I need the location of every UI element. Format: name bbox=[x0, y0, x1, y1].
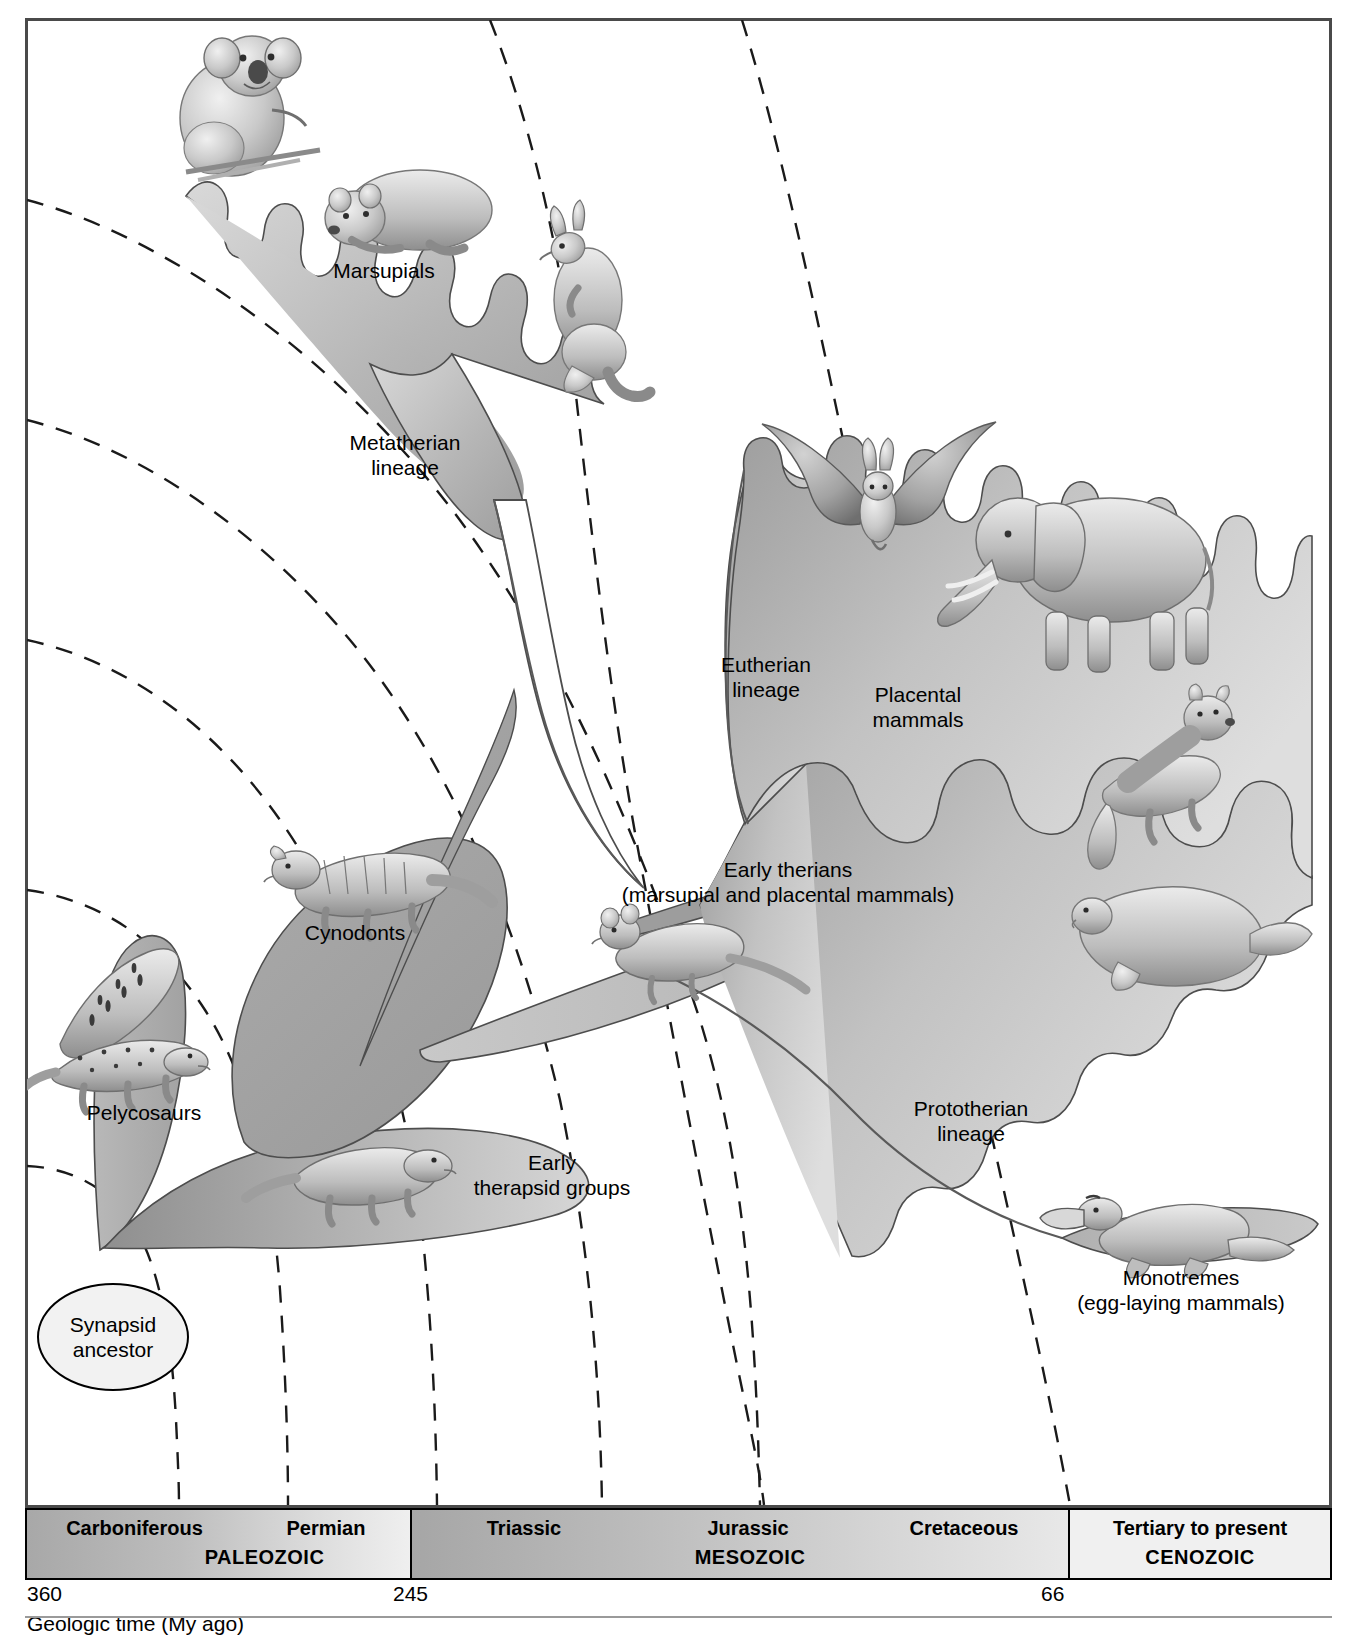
timescale-tick-row: 360 245 66 bbox=[25, 1582, 1332, 1616]
era-name-cenozoic: CENOZOIC bbox=[1070, 1546, 1330, 1569]
era-mesozoic: Triassic Jurassic Cretaceous MESOZOIC bbox=[412, 1510, 1070, 1578]
period-permian: Permian bbox=[242, 1517, 410, 1540]
tick-360: 360 bbox=[27, 1582, 62, 1606]
clade-label-metatherian-lineage: Metatherian lineage bbox=[310, 430, 500, 480]
clade-label-cynodonts: Cynodonts bbox=[292, 920, 418, 945]
mesozoic-periods: Triassic Jurassic Cretaceous bbox=[412, 1510, 1068, 1546]
clade-label-early-therians: Early therians (marsupial and placental … bbox=[620, 857, 956, 907]
clade-label-monotremes: Monotremes (egg-laying mammals) bbox=[1056, 1265, 1306, 1315]
figure-bottom-rule bbox=[25, 1616, 1332, 1618]
paleozoic-periods: Carboniferous Permian bbox=[27, 1510, 410, 1546]
period-triassic: Triassic bbox=[412, 1517, 636, 1540]
cenozoic-periods: Tertiary to present bbox=[1070, 1510, 1330, 1546]
synapsid-ancestor-label: Synapsid ancestor bbox=[39, 1312, 187, 1362]
clade-label-pelycosaurs: Pelycosaurs bbox=[76, 1100, 212, 1125]
clade-label-placental-mammals: Placental mammals bbox=[848, 682, 988, 732]
period-cretaceous: Cretaceous bbox=[860, 1517, 1068, 1540]
tick-66: 66 bbox=[1041, 1582, 1064, 1606]
era-name-mesozoic: MESOZOIC bbox=[412, 1546, 1078, 1569]
tick-245: 245 bbox=[393, 1582, 428, 1606]
mammal-evolution-figure: Marsupials Metatherian lineage Eutherian… bbox=[0, 0, 1357, 1641]
clade-label-early-therapsid-groups: Early therapsid groups bbox=[452, 1150, 652, 1200]
era-name-paleozoic: PALEOZOIC bbox=[27, 1546, 456, 1569]
synapsid-ancestor-node: Synapsid ancestor bbox=[37, 1283, 189, 1391]
period-carboniferous: Carboniferous bbox=[27, 1517, 242, 1540]
era-cenozoic: Tertiary to present CENOZOIC bbox=[1070, 1510, 1330, 1578]
geologic-timescale-bar: Carboniferous Permian PALEOZOIC Triassic… bbox=[25, 1508, 1332, 1580]
clade-label-eutherian-lineage: Eutherian lineage bbox=[692, 652, 840, 702]
period-jurassic: Jurassic bbox=[636, 1517, 860, 1540]
clade-label-prototherian-lineage: Prototherian lineage bbox=[882, 1096, 1060, 1146]
era-paleozoic: Carboniferous Permian PALEOZOIC bbox=[27, 1510, 412, 1578]
period-tertiary-to-present: Tertiary to present bbox=[1070, 1517, 1330, 1540]
clade-label-marsupials: Marsupials bbox=[318, 258, 450, 283]
